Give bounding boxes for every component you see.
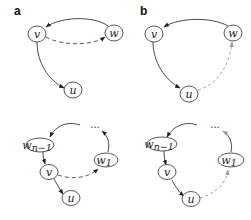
- edge-w-to-v: [46, 19, 108, 27]
- node-v-label: v: [46, 166, 53, 179]
- node-u-label: u: [69, 84, 76, 97]
- edge-v-to-w-dashed: [46, 37, 105, 44]
- node-w-label: w: [109, 27, 119, 40]
- panel-b-top-graph: v w u: [145, 19, 242, 102]
- edge-v-to-u: [153, 42, 180, 88]
- node-v-label: v: [164, 166, 171, 179]
- edge-v-to-u: [172, 180, 184, 196]
- node-v-label: v: [151, 28, 158, 41]
- node-w-1-label: w1: [96, 154, 111, 168]
- diagram-canvas: a v w u ... wn−1 v u: [0, 0, 251, 220]
- ellipsis: ...: [210, 119, 220, 130]
- node-w-n-minus-1-label: wn−1: [144, 138, 174, 152]
- edge-v-to-u: [54, 179, 63, 194]
- edge-w1-to-ellipsis: [223, 131, 232, 152]
- node-w-1-label: w1: [221, 154, 236, 168]
- panel-a: a v w u ... wn−1 v u: [14, 4, 123, 206]
- panel-b-bottom-graph: ... wn−1 v u w1: [144, 119, 244, 207]
- node-w-label: w: [228, 27, 238, 40]
- node-w-n-minus-1-label: wn−1: [22, 139, 52, 153]
- panel-b-label: b: [140, 4, 147, 18]
- panel-a-bottom-graph: ... wn−1 v u w1: [22, 119, 118, 206]
- edge-w-to-v: [164, 19, 228, 27]
- panel-a-label: a: [14, 4, 21, 18]
- ellipsis: ...: [90, 119, 100, 130]
- edge-ellipsis-to-wn1: [167, 124, 197, 138]
- edge-u-to-w1-dashed: [200, 170, 228, 198]
- edge-ellipsis-to-wn1: [50, 124, 80, 138]
- node-u-label: u: [185, 88, 192, 101]
- edge-v-to-u: [37, 42, 64, 88]
- edge-wn1-to-v: [164, 151, 166, 165]
- panel-a-top-graph: v w u: [28, 19, 123, 98]
- node-u-label: u: [67, 192, 74, 205]
- edge-u-to-w-dashed: [198, 42, 232, 90]
- node-u-label: u: [187, 193, 194, 206]
- panel-b: b v w u ... wn−1 v u: [140, 4, 244, 207]
- edge-w1-to-ellipsis: [102, 131, 109, 152]
- edge-wn1-to-v: [43, 152, 45, 164]
- edge-v-to-w1-dashed: [58, 169, 98, 178]
- node-v-label: v: [34, 28, 41, 41]
